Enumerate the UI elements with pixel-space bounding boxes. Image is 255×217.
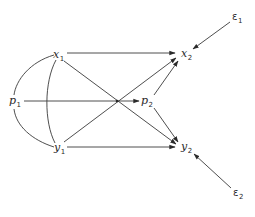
svg-text:ε1: ε1 <box>232 11 242 25</box>
node-p1-sub: 1 <box>17 101 21 109</box>
node-p2-sub: 2 <box>149 101 153 109</box>
node-p1: p1 <box>9 94 21 109</box>
node-x1: x1 <box>53 48 64 63</box>
svg-text:x2: x2 <box>181 47 192 62</box>
svg-text:ε2: ε2 <box>233 187 243 201</box>
error-e1: ε1 <box>232 11 242 25</box>
node-x2: x2 <box>181 47 192 62</box>
edge-x1-y2 <box>64 61 176 144</box>
svg-text:p1: p1 <box>9 94 21 109</box>
correlation-p1-y1 <box>14 109 54 147</box>
svg-text:x1: x1 <box>53 48 64 63</box>
edge-e2-y2 <box>194 154 231 188</box>
edge-p2-x2 <box>154 61 178 95</box>
error-e2-base: ε <box>233 187 238 198</box>
node-x2-sub: 2 <box>188 54 192 62</box>
error-e2: ε2 <box>233 187 243 201</box>
edge-y1-x2 <box>64 58 176 142</box>
node-p1-base: p <box>9 94 16 107</box>
path-diagram: x1 y1 p1 x2 y2 p2 ε1 ε2 <box>0 0 255 217</box>
edge-e1-x2 <box>193 22 230 49</box>
node-y2-sub: 2 <box>188 147 192 155</box>
error-e1-base: ε <box>232 11 237 22</box>
node-y1: y1 <box>53 141 65 156</box>
node-p2-base: p <box>141 94 148 107</box>
node-y2: y2 <box>180 140 192 155</box>
error-e1-sub: 1 <box>238 17 242 25</box>
node-x1-sub: 1 <box>60 55 64 63</box>
svg-text:y1: y1 <box>53 141 65 156</box>
svg-text:y2: y2 <box>180 140 192 155</box>
error-e2-sub: 2 <box>239 193 243 201</box>
node-p2: p2 <box>141 94 153 109</box>
correlation-x1-y1 <box>47 60 56 143</box>
crossing-point <box>116 100 119 103</box>
svg-text:p2: p2 <box>141 94 153 109</box>
node-y1-sub: 1 <box>61 148 65 156</box>
